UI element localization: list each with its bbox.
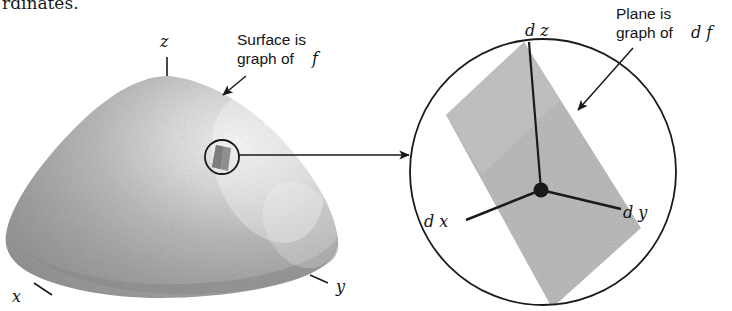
label-dx: d x — [424, 212, 448, 231]
figure-container: rdinates. — [0, 0, 732, 311]
left-panel-surface — [6, 57, 353, 298]
label-y: y — [335, 277, 346, 296]
label-x: x — [12, 287, 21, 306]
right-panel-magnified — [410, 39, 676, 308]
cut-off-text: rdinates. — [2, 0, 79, 13]
plane-callout-line2: graph of d f — [616, 23, 715, 42]
y-axis-tick — [310, 275, 328, 283]
surface-callout-arrow — [223, 76, 246, 95]
cut-off-text-above: rdinates. — [2, 0, 79, 13]
plane-callout-arrow — [578, 48, 633, 110]
origin-dot — [534, 183, 549, 198]
plane-callout-differential-symbol: d f — [691, 23, 715, 42]
surface-callout-function-symbol: f — [311, 49, 321, 68]
plane-callout-line2-prefix: graph of — [616, 24, 674, 41]
surface-callout-line2-prefix: graph of — [237, 50, 295, 67]
x-axis-tick — [34, 283, 52, 295]
label-z: z — [159, 32, 169, 51]
figure-canvas: rdinates. — [0, 0, 732, 311]
surface-callout-line2: graph of f — [237, 49, 321, 68]
surface-callout-line1: Surface is — [237, 31, 306, 48]
label-dy: d y — [623, 203, 648, 222]
plane-callout-line1: Plane is — [616, 5, 671, 22]
label-dz: d z — [525, 21, 549, 40]
